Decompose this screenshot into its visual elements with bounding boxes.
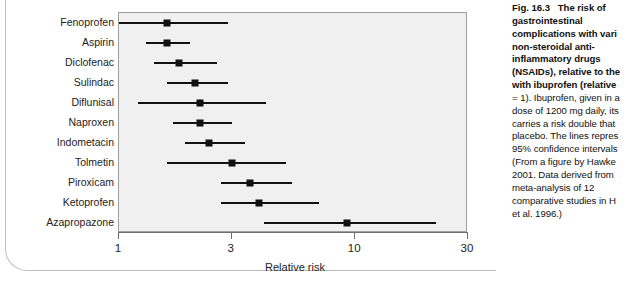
category-label: Tolmetin	[16, 157, 114, 168]
figure-16-3: FenoprofenAspirinDiclofenacSulindacDiflu…	[0, 0, 480, 292]
caption-line: comparative studies in H	[512, 195, 644, 208]
caption-line: inflammatory drugs	[512, 53, 644, 66]
x-axis-line	[118, 232, 467, 233]
x-axis-tick-label: 1	[115, 242, 121, 254]
caption-line: (NSAIDs), relative to the	[512, 66, 644, 79]
confidence-interval-line	[221, 202, 319, 204]
caption-line: placebo. The lines repres	[512, 130, 644, 143]
x-axis-tick-label: 3	[228, 242, 234, 254]
caption-line: et al. 1996.)	[512, 208, 644, 221]
data-point-marker	[164, 20, 171, 27]
category-label: Piroxicam	[16, 177, 114, 188]
confidence-interval-line	[167, 162, 286, 164]
x-axis-label: Relative risk	[0, 261, 590, 273]
caption-line: with ibuprofen (relative	[512, 79, 644, 92]
confidence-interval-line	[154, 62, 218, 64]
category-label-column: FenoprofenAspirinDiclofenacSulindacDiflu…	[14, 0, 114, 292]
category-label: Fenoprofen	[16, 17, 114, 28]
data-point-marker	[176, 60, 183, 67]
caption-line: 2001. Data derived from	[512, 169, 644, 182]
x-axis-tick	[354, 232, 355, 239]
caption-figure-number: Fig. 16.3	[512, 2, 550, 13]
data-point-marker	[228, 160, 235, 167]
caption-line: carries a risk double that	[512, 118, 644, 131]
data-point-marker	[196, 100, 203, 107]
x-axis-tick	[118, 232, 119, 239]
caption-line: non-steroidal anti-	[512, 41, 644, 54]
caption-line: Fig. 16.3 The risk of	[512, 2, 644, 15]
x-axis-tick	[231, 232, 232, 239]
category-label: Naproxen	[16, 117, 114, 128]
data-point-marker	[164, 40, 171, 47]
data-point-marker	[255, 200, 262, 207]
confidence-interval-line	[119, 22, 228, 24]
x-axis-tick-label: 30	[461, 242, 474, 254]
category-label: Diflunisal	[16, 97, 114, 108]
data-point-marker	[205, 140, 212, 147]
forest-plot-area	[118, 12, 467, 232]
data-point-marker	[343, 220, 350, 227]
caption-line: dose of 1200 mg daily, its	[512, 105, 644, 118]
caption-line: 95% confidence intervals	[512, 143, 644, 156]
category-label: Ketoprofen	[16, 197, 114, 208]
caption-line: (From a figure by Hawke	[512, 156, 644, 169]
figure-caption: Fig. 16.3 The risk ofgastrointestinalcom…	[512, 2, 644, 242]
category-label: Sulindac	[16, 77, 114, 88]
x-axis-tick-label: 10	[348, 242, 361, 254]
caption-line: = 1). Ibuprofen, given in a	[512, 92, 644, 105]
confidence-interval-line	[221, 182, 292, 184]
data-point-marker	[192, 80, 199, 87]
caption-line: meta-analysis of 12	[512, 182, 644, 195]
x-axis-tick	[467, 232, 468, 239]
caption-line: gastrointestinal	[512, 15, 644, 28]
data-point-marker	[247, 180, 254, 187]
confidence-interval-line	[185, 142, 245, 144]
category-label: Diclofenac	[16, 57, 114, 68]
category-label: Azapropazone	[16, 217, 114, 228]
caption-line-text: The risk of	[550, 2, 606, 13]
category-label: Aspirin	[16, 37, 114, 48]
category-label: Indometacin	[16, 137, 114, 148]
caption-line: complications with vari	[512, 28, 644, 41]
data-point-marker	[196, 120, 203, 127]
